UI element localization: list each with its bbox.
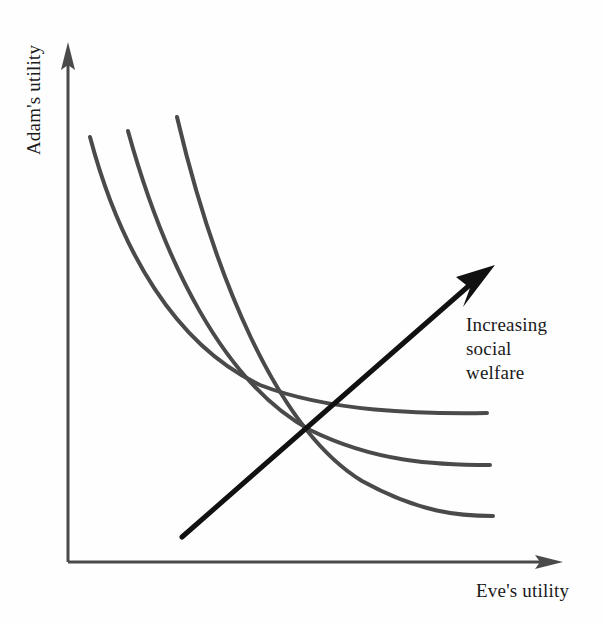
social-welfare-curve-1: [90, 137, 487, 413]
increasing-welfare-arrow: [182, 265, 495, 537]
annotation-line-1: Increasing: [466, 313, 547, 337]
x-axis: [68, 555, 563, 569]
y-axis: [61, 42, 75, 562]
social-welfare-curve-2: [128, 131, 490, 465]
x-axis-label: Eve's utility: [476, 581, 569, 600]
social-welfare-curve-3: [177, 117, 493, 516]
increasing-social-welfare-label: Increasing social welfare: [466, 313, 547, 385]
annotation-line-3: welfare: [466, 361, 547, 385]
y-axis-label: Adam's utility: [24, 45, 43, 155]
annotation-line-2: social: [466, 337, 547, 361]
welfare-arrow-head: [456, 265, 495, 307]
social-welfare-diagram: Adam's utility Eve's utility Increasing …: [0, 0, 603, 626]
welfare-arrow-shaft: [182, 276, 480, 537]
